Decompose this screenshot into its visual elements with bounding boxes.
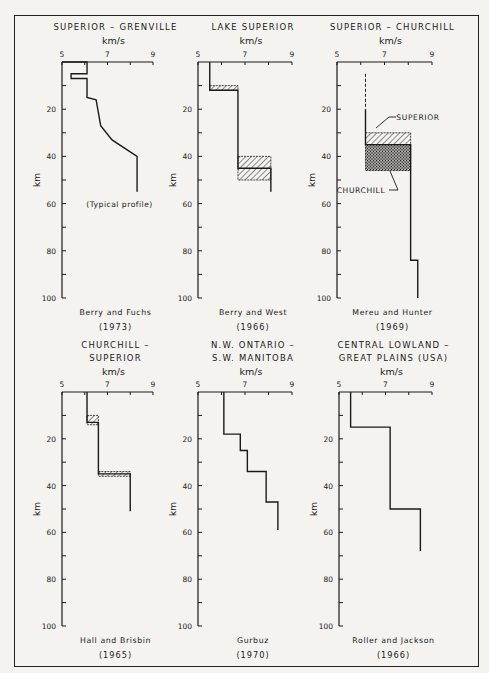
y-axis-label: km	[168, 502, 178, 516]
x-tick-label: 9	[151, 380, 156, 389]
x-tick-label: 5	[196, 50, 201, 59]
velocity-profile	[62, 62, 137, 192]
y-tick-label: 100	[178, 294, 193, 303]
y-tick-label: 40	[182, 152, 192, 161]
y-tick-label: 60	[182, 528, 192, 537]
panel-nw-ontario-sw-manitoba: N.W. ONTARIO –S.W. MANITOBAkm/s579204060…	[168, 340, 295, 660]
panel-superior-grenville: SUPERIOR – GRENVILLEkm/s57920406080100km…	[32, 22, 178, 332]
y-axis-label: km	[168, 173, 178, 187]
x-tick-label: 9	[430, 50, 435, 59]
y-axis-label: km	[309, 502, 319, 516]
x-tick-label: 7	[105, 50, 110, 59]
source-year: (1965)	[99, 650, 132, 660]
y-tick-label: 80	[182, 575, 192, 584]
panel-superior-churchill: SUPERIOR – CHURCHILLkm/s57920406080100km…	[307, 22, 455, 332]
y-tick-label: 40	[182, 482, 192, 491]
x-tick-label: 7	[243, 380, 248, 389]
hatched-layer	[366, 145, 411, 171]
velocity-profile	[351, 392, 421, 551]
y-axis-label: km	[32, 173, 42, 187]
velocity-profile	[87, 392, 130, 511]
source-year: (1969)	[376, 322, 409, 332]
y-tick-label: 40	[46, 152, 56, 161]
y-tick-label: 100	[319, 622, 334, 631]
y-tick-label: 20	[182, 105, 192, 114]
y-tick-label: 60	[182, 200, 192, 209]
x-tick-label: 5	[337, 380, 342, 389]
y-tick-label: 100	[317, 294, 332, 303]
source-year: (1970)	[236, 650, 269, 660]
source-year: (1966)	[377, 650, 410, 660]
y-axis-label: km	[32, 502, 42, 516]
x-axis-unit: km/s	[379, 35, 402, 46]
superior-layer-label: SUPERIOR	[396, 113, 439, 122]
y-tick-label: 40	[323, 482, 333, 491]
velocity-profile	[224, 392, 278, 530]
y-tick-label: 60	[321, 200, 331, 209]
panel-title: SUPERIOR – GRENVILLE	[53, 22, 177, 32]
source-citation: Berry and West	[219, 308, 287, 317]
hatched-layer	[210, 86, 238, 91]
y-axis-label: km	[307, 173, 317, 187]
y-tick-label: 20	[323, 435, 333, 444]
x-tick-label: 7	[105, 380, 110, 389]
panel-title: N.W. ONTARIO –	[211, 340, 295, 350]
source-citation: Berry and Fuchs	[80, 308, 152, 317]
panel-title: CHURCHILL –	[81, 340, 150, 350]
panel-central-lowland-great-plains: CENTRAL LOWLAND –GREAT PLAINS (USA)km/s5…	[309, 340, 450, 660]
x-tick-label: 7	[382, 50, 387, 59]
hatched-layer	[366, 133, 411, 145]
x-tick-label: 7	[243, 50, 248, 59]
panel-lake-superior: LAKE SUPERIORkm/s57920406080100kmBerry a…	[168, 22, 295, 332]
panel-title: SUPERIOR – CHURCHILL	[330, 22, 455, 32]
y-tick-label: 80	[321, 247, 331, 256]
y-tick-label: 20	[321, 105, 331, 114]
superior-leader-line	[376, 117, 396, 128]
churchill-leader-line	[389, 171, 398, 190]
y-tick-label: 100	[178, 622, 193, 631]
y-tick-label: 80	[182, 247, 192, 256]
source-citation: Mereu and Hunter	[352, 308, 433, 317]
x-axis-unit: km/s	[102, 366, 125, 377]
y-tick-label: 80	[46, 247, 56, 256]
y-tick-label: 60	[46, 528, 56, 537]
source-year: (1966)	[236, 322, 269, 332]
y-tick-label: 80	[323, 575, 333, 584]
x-tick-label: 5	[196, 380, 201, 389]
panel-title: S.W. MANITOBA	[212, 353, 294, 363]
panel-churchill-superior: CHURCHILL –SUPERIORkm/s57920406080100kmH…	[32, 340, 156, 660]
x-axis-unit: km/s	[240, 366, 263, 377]
panel-title: GREAT PLAINS (USA)	[339, 353, 449, 363]
x-tick-label: 5	[60, 50, 65, 59]
y-tick-label: 20	[46, 435, 56, 444]
y-tick-label: 40	[46, 482, 56, 491]
y-tick-label: 60	[323, 528, 333, 537]
x-axis-unit: km/s	[380, 366, 403, 377]
x-tick-label: 9	[290, 50, 295, 59]
x-tick-label: 9	[430, 380, 435, 389]
y-tick-label: 100	[42, 294, 57, 303]
typical-profile-annotation: (Typical profile)	[86, 200, 153, 209]
y-tick-label: 20	[182, 435, 192, 444]
x-tick-label: 9	[290, 380, 295, 389]
panel-title: SUPERIOR	[89, 353, 142, 363]
churchill-layer-label: CHURCHILL	[337, 186, 386, 195]
source-citation: Roller and Jackson	[352, 636, 434, 645]
y-tick-label: 20	[46, 105, 56, 114]
y-tick-label: 100	[42, 622, 57, 631]
panel-title: LAKE SUPERIOR	[211, 22, 294, 32]
seismic-velocity-figure: SUPERIOR – GRENVILLEkm/s57920406080100km…	[0, 0, 489, 673]
y-tick-label: 60	[46, 200, 56, 209]
x-tick-label: 5	[60, 380, 65, 389]
source-year: (1973)	[99, 322, 132, 332]
source-citation: Gurbuz	[237, 636, 269, 645]
source-citation: Hall and Brisbin	[80, 636, 151, 645]
panel-title: CENTRAL LOWLAND –	[337, 340, 449, 350]
x-axis-unit: km/s	[102, 35, 125, 46]
x-tick-label: 9	[151, 50, 156, 59]
x-axis-unit: km/s	[240, 35, 263, 46]
x-tick-label: 5	[335, 50, 340, 59]
hatched-layer	[87, 415, 98, 424]
x-tick-label: 7	[383, 380, 388, 389]
y-tick-label: 40	[321, 152, 331, 161]
